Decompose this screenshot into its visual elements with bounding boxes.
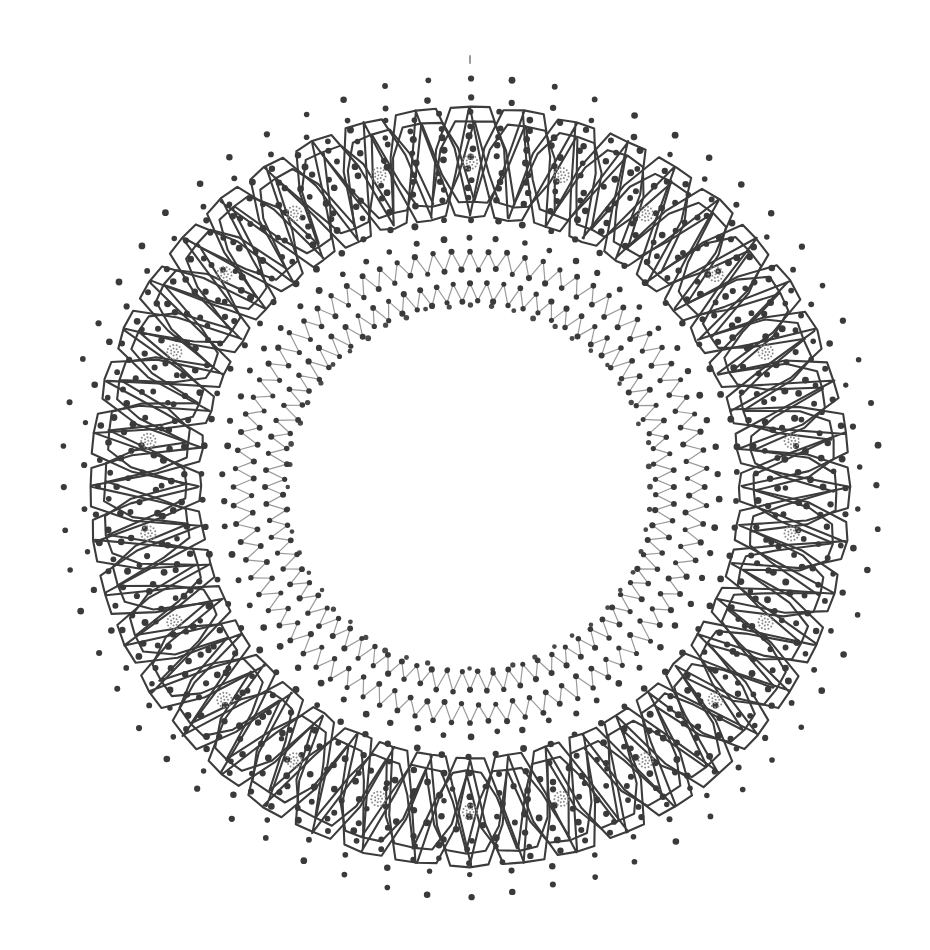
dot <box>441 732 447 738</box>
dot <box>525 796 531 802</box>
dot <box>311 783 318 790</box>
dot <box>493 844 498 849</box>
dot <box>139 327 145 333</box>
dot <box>119 340 125 346</box>
dot <box>582 838 588 844</box>
dot <box>578 173 584 179</box>
rosette-dot <box>641 761 643 763</box>
rosette-dot <box>380 171 382 173</box>
dot <box>168 478 175 485</box>
dot <box>634 166 640 172</box>
rosette-dot <box>474 156 476 158</box>
zigzag-vertex-dot <box>361 694 366 699</box>
dot <box>549 863 555 869</box>
rosette-dot <box>784 529 786 531</box>
dot <box>410 136 417 143</box>
dot <box>261 346 267 352</box>
rosette-dot <box>793 443 795 445</box>
dot <box>412 843 418 849</box>
dot <box>594 698 600 704</box>
dot <box>603 783 609 789</box>
dot <box>764 596 771 603</box>
rosette-dot <box>790 433 792 435</box>
dot <box>197 618 203 624</box>
dot <box>494 153 500 159</box>
zigzag-vertex-dot <box>592 645 598 651</box>
dot <box>727 416 734 423</box>
dot <box>855 612 861 618</box>
dot <box>170 278 177 285</box>
zigzag-vertex-dot <box>308 631 314 637</box>
rosette-dot <box>761 623 763 625</box>
zigzag-vertex-dot <box>285 523 290 528</box>
dot <box>811 667 817 673</box>
dot <box>227 418 233 424</box>
dot <box>383 786 389 792</box>
dot <box>387 759 393 765</box>
zigzag-vertex-dot <box>395 260 400 265</box>
rosette-dot <box>784 440 786 442</box>
zigzag-vertex-dot <box>317 377 322 382</box>
dot <box>523 136 530 143</box>
zigzag-vertex-dot <box>377 702 382 707</box>
rosette-dot <box>226 705 228 707</box>
dot <box>320 588 325 593</box>
rosette-dot <box>758 348 760 350</box>
rosette-dot <box>144 531 146 533</box>
dot <box>728 604 734 610</box>
rosette-dot <box>763 614 765 616</box>
dot <box>325 148 331 154</box>
dot <box>734 469 740 475</box>
rosette-dot <box>476 809 478 811</box>
dot <box>279 736 284 741</box>
dot <box>868 400 874 406</box>
dot <box>611 819 617 825</box>
rosette-dot <box>645 213 647 215</box>
dot <box>754 560 760 566</box>
zigzag-vertex-dot <box>684 459 689 464</box>
dot <box>566 764 573 771</box>
dot <box>742 623 748 629</box>
dot <box>712 667 718 673</box>
dot <box>441 770 448 777</box>
rosette-dot <box>563 171 565 173</box>
zigzag-vertex-dot <box>392 688 397 693</box>
rosette-dot <box>475 166 477 168</box>
zigzag-vertex-dot <box>685 476 690 481</box>
zigzag-vertex-dot <box>330 633 336 639</box>
dot <box>161 569 168 576</box>
rosette-dot <box>173 358 175 360</box>
dot <box>61 443 67 449</box>
zigzag-vertex-dot <box>704 466 709 471</box>
rosette-dot <box>176 354 178 356</box>
zigzag-vertex-dot <box>412 713 417 718</box>
dot <box>523 147 530 154</box>
dot <box>424 778 431 785</box>
rosette-dot <box>230 275 232 277</box>
dot <box>632 859 638 865</box>
dot <box>825 440 832 447</box>
dot <box>674 345 680 351</box>
dot <box>468 894 474 900</box>
dot <box>187 550 194 557</box>
rosette-dot <box>563 791 565 793</box>
zigzag-vertex-dot <box>605 674 611 680</box>
dot <box>436 792 443 799</box>
dot <box>142 415 148 421</box>
rosette-dot <box>711 272 713 274</box>
rosette-dot <box>647 210 649 212</box>
rosette-dot <box>381 174 383 176</box>
rosette-dot <box>794 532 796 534</box>
rosette-dot <box>798 441 800 443</box>
rosette-dot <box>383 793 385 795</box>
dot <box>873 482 879 488</box>
rosette-dot <box>765 621 767 623</box>
zigzag-vertex-dot <box>651 446 656 451</box>
rosette-dot <box>166 351 168 353</box>
zigzag-vertex-dot <box>704 503 709 508</box>
dot <box>570 806 576 812</box>
dot <box>583 127 589 133</box>
zigzag-vertex-dot <box>385 671 391 677</box>
rosette-dot <box>554 171 556 173</box>
dot <box>631 834 637 840</box>
